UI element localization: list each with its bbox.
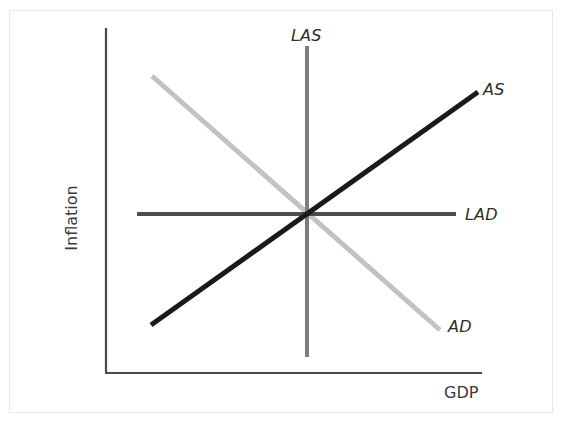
curve-label-ad: AD xyxy=(448,317,472,336)
curve-label-as: AS xyxy=(483,80,505,99)
y-axis-label: Inflation xyxy=(62,168,81,268)
ad-as-diagram: LAS AS LAD AD GDP Inflation xyxy=(0,0,569,424)
curve-as-line xyxy=(151,92,478,325)
x-axis-label: GDP xyxy=(444,383,478,402)
curve-label-lad: LAD xyxy=(465,205,498,224)
curve-label-las: LAS xyxy=(291,26,322,45)
curves-group xyxy=(137,46,478,357)
